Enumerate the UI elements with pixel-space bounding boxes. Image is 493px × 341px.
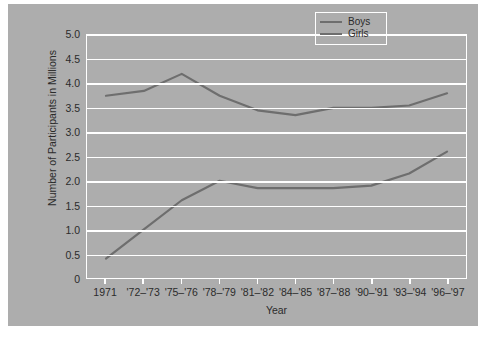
legend-swatch-boys xyxy=(320,21,342,24)
plot-area xyxy=(86,34,467,279)
gridline xyxy=(87,132,466,134)
y-tick-label: 2.0 xyxy=(20,176,80,187)
x-tick-label: '96–'97 xyxy=(418,286,478,298)
x-tick-mark xyxy=(104,279,106,284)
y-tick-label: 5.0 xyxy=(20,29,80,40)
x-tick-mark xyxy=(257,279,259,284)
gridline xyxy=(87,230,466,232)
y-tick-label: 0.5 xyxy=(20,250,80,261)
gridline xyxy=(87,157,466,159)
y-axis-ticks: Number of Participants in Millions 00.51… xyxy=(16,34,80,279)
x-tick-mark xyxy=(333,279,335,284)
gridline xyxy=(87,34,466,36)
legend-item-boys: Boys xyxy=(320,16,382,28)
y-tick-label: 3.0 xyxy=(20,127,80,138)
y-tick-label: 1.0 xyxy=(20,225,80,236)
x-tick-mark xyxy=(142,279,144,284)
legend-swatch-girls xyxy=(320,33,342,36)
y-tick-label: 3.5 xyxy=(20,103,80,114)
legend-label-boys: Boys xyxy=(348,17,370,27)
gridline xyxy=(87,59,466,61)
chart-legend: Boys Girls xyxy=(315,12,387,45)
x-axis-title: Year xyxy=(86,304,467,316)
x-tick-mark xyxy=(219,279,221,284)
gridline xyxy=(87,83,466,85)
legend-label-girls: Girls xyxy=(348,29,369,39)
y-tick-label: 2.5 xyxy=(20,152,80,163)
y-tick-label: 4.5 xyxy=(20,54,80,65)
gridline xyxy=(87,255,466,257)
x-tick-mark xyxy=(371,279,373,284)
legend-item-girls: Girls xyxy=(320,28,382,40)
y-tick-label: 1.5 xyxy=(20,201,80,212)
gridline xyxy=(87,206,466,208)
x-axis-ticks: 1971'72–'73'75–'76'78–'79'81–'82'84–'85'… xyxy=(86,279,467,305)
x-tick-mark xyxy=(295,279,297,284)
gridline xyxy=(87,108,466,110)
y-tick-label: 4.0 xyxy=(20,78,80,89)
y-tick-label: 0 xyxy=(20,274,80,285)
x-tick-mark xyxy=(447,279,449,284)
x-tick-mark xyxy=(181,279,183,284)
x-tick-mark xyxy=(409,279,411,284)
chart-figure: Number of Participants in Millions 00.51… xyxy=(0,0,493,341)
chart-panel: Number of Participants in Millions 00.51… xyxy=(8,4,478,326)
gridline xyxy=(87,181,466,183)
